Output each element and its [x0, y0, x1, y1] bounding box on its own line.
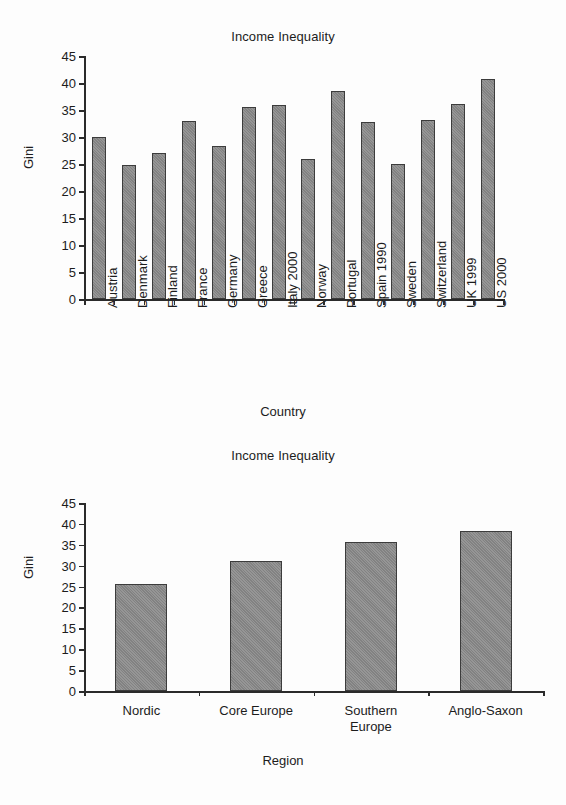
y-axis-tick — [79, 670, 85, 672]
y-axis-tick-label: 20 — [36, 600, 76, 615]
y-axis-tick-label: 0 — [36, 684, 76, 699]
y-axis-tick-label: 30 — [36, 130, 76, 145]
x-axis-tick — [443, 299, 445, 305]
x-axis-category-label: Austria — [105, 268, 120, 308]
bar — [212, 146, 226, 299]
x-axis-category-label: Denmark — [135, 255, 150, 308]
x-axis-tick — [84, 691, 86, 696]
x-axis-tick — [353, 299, 355, 305]
chart-income-inequality-by-region: Income Inequality Gini 05101520253035404… — [0, 435, 566, 805]
x-axis-tick — [428, 691, 430, 696]
y-axis-tick — [79, 218, 85, 220]
y-axis-tick-label: 45 — [36, 49, 76, 64]
y-axis-tick-label: 0 — [36, 292, 76, 307]
bar — [182, 121, 196, 299]
y-axis-line — [84, 56, 86, 300]
plot-area-country: 051015202530354045AustriaDenmarkFinlandF… — [0, 0, 566, 435]
x-axis-tick — [543, 691, 545, 696]
x-axis-category-label: Germany — [225, 255, 240, 308]
y-axis-tick-label: 40 — [36, 76, 76, 91]
x-axis-tick — [199, 691, 201, 696]
y-axis-tick — [79, 137, 85, 139]
x-axis-tick — [314, 691, 316, 696]
x-axis-tick — [144, 299, 146, 305]
y-axis-tick — [79, 191, 85, 193]
bar — [272, 105, 286, 299]
y-axis-line — [84, 503, 86, 692]
x-axis-category-label: Italy 2000 — [285, 252, 300, 308]
x-axis-category-label: Anglo-Saxon — [428, 703, 543, 719]
x-axis-tick — [503, 299, 505, 305]
y-axis-tick — [79, 545, 85, 547]
y-axis-tick-label: 25 — [36, 157, 76, 172]
x-axis-category-label: Core Europe — [199, 703, 314, 719]
bar — [152, 153, 166, 299]
bar — [481, 79, 495, 299]
bar — [230, 561, 282, 691]
x-axis-category-label: Southern Europe — [314, 703, 429, 736]
y-axis-tick — [79, 649, 85, 651]
page-canvas: Income Inequality Gini 05101520253035404… — [0, 0, 566, 805]
y-axis-tick-label: 10 — [36, 642, 76, 657]
y-axis-tick — [79, 164, 85, 166]
y-axis-tick — [79, 503, 85, 505]
y-axis-tick-label: 10 — [36, 238, 76, 253]
bar — [460, 531, 512, 691]
y-axis-tick-label: 30 — [36, 558, 76, 573]
x-axis-tick — [114, 299, 116, 305]
x-axis-tick — [383, 299, 385, 305]
y-axis-tick-label: 5 — [36, 265, 76, 280]
bar — [242, 107, 256, 299]
bar — [122, 165, 136, 299]
y-axis-tick — [79, 587, 85, 589]
x-axis-category-label: Greece — [255, 265, 270, 308]
y-axis-tick-label: 45 — [36, 496, 76, 511]
y-axis-tick — [79, 56, 85, 58]
x-axis-tick — [473, 299, 475, 305]
y-axis-tick — [79, 272, 85, 274]
y-axis-tick — [79, 83, 85, 85]
y-axis-tick-label: 25 — [36, 579, 76, 594]
x-axis-tick — [174, 299, 176, 305]
x-axis-category-label: Norway — [314, 264, 329, 308]
y-axis-tick — [79, 110, 85, 112]
x-axis-category-label: US 2000 — [494, 257, 509, 308]
x-axis-tick — [264, 299, 266, 305]
x-axis-category-label: Nordic — [84, 703, 199, 719]
y-axis-tick — [79, 524, 85, 526]
plot-area-region: 051015202530354045NordicCore EuropeSouth… — [0, 435, 566, 805]
bar — [345, 542, 397, 691]
bar — [115, 584, 167, 691]
bar — [92, 137, 106, 299]
x-axis-category-label: Sweden — [404, 261, 419, 308]
x-axis-category-label: Finland — [165, 265, 180, 308]
y-axis-tick-label: 15 — [36, 621, 76, 636]
clipped-caption-text — [0, 799, 566, 805]
x-axis-tick — [84, 299, 86, 305]
x-axis-category-label: France — [195, 268, 210, 308]
x-axis-tick — [234, 299, 236, 305]
x-axis-category-label: Spain 1990 — [374, 242, 389, 308]
y-axis-tick-label: 35 — [36, 103, 76, 118]
x-axis-tick — [294, 299, 296, 305]
y-axis-tick-label: 15 — [36, 211, 76, 226]
x-axis-category-label: Switzerland — [434, 241, 449, 308]
y-axis-tick-label: 5 — [36, 663, 76, 678]
x-axis-category-label: Portugal — [344, 260, 359, 308]
y-axis-tick-label: 35 — [36, 537, 76, 552]
y-axis-tick-label: 40 — [36, 516, 76, 531]
y-axis-tick — [79, 607, 85, 609]
chart-income-inequality-by-country: Income Inequality Gini 05101520253035404… — [0, 0, 566, 435]
y-axis-tick — [79, 245, 85, 247]
x-axis-tick — [323, 299, 325, 305]
x-axis-label-country: Country — [0, 404, 566, 419]
y-axis-tick-label: 20 — [36, 184, 76, 199]
y-axis-tick — [79, 628, 85, 630]
x-axis-tick — [413, 299, 415, 305]
x-axis-label-region: Region — [0, 753, 566, 768]
x-axis-category-label: UK 1999 — [464, 257, 479, 308]
x-axis-tick — [204, 299, 206, 305]
bar — [451, 104, 465, 299]
y-axis-tick — [79, 566, 85, 568]
